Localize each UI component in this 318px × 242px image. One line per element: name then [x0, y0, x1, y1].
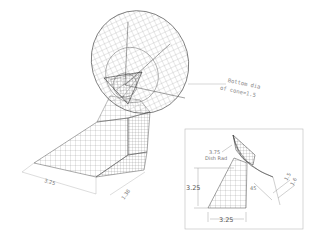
detail-angle-label: 45	[250, 185, 256, 191]
main-drawing: Bottom dia of cone=1.5 3.25 1.38	[0, 0, 318, 242]
base-depth-label: 1.38	[120, 188, 131, 201]
dish-wireframe	[75, 0, 206, 129]
leader-note-line-2: Dish Rad	[205, 155, 227, 161]
base-width-label: 3.25	[44, 177, 56, 186]
detail-height-label: 3.25	[186, 184, 200, 192]
detail-view: 3.25 3.25 45 1.5 1.6 3.75 Dish Rad	[185, 129, 303, 229]
detail-width-label: 3.25	[219, 216, 233, 224]
